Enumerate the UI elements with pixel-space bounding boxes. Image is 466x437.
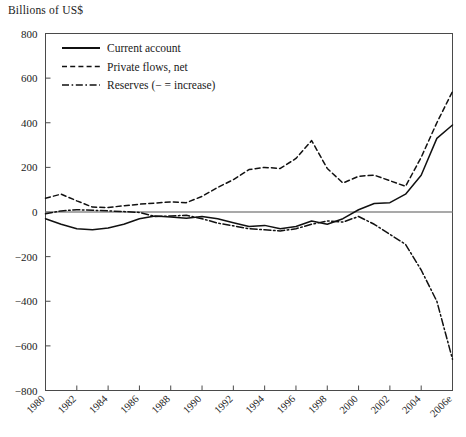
x-tick-label: 2004: [400, 393, 423, 416]
y-tick-label: −200: [15, 251, 38, 263]
x-tick-label: 1986: [118, 393, 141, 416]
legend-label-2: Reserves (− = increase): [107, 79, 216, 92]
x-tick-label: 2002: [369, 393, 392, 416]
series-line-0: [46, 125, 453, 230]
chart-plot: 8006004002000−200−400−600−80019801982198…: [0, 0, 466, 437]
y-tick-label: −400: [15, 295, 38, 307]
x-tick-label: 1982: [56, 393, 79, 416]
y-tick-label: 200: [21, 161, 38, 173]
x-tick-label: 2006e: [428, 393, 454, 419]
x-tick-label: 1988: [150, 393, 173, 416]
x-tick-label: 1980: [24, 393, 47, 416]
x-tick-label: 1994: [243, 393, 266, 416]
y-tick-label: 400: [21, 117, 38, 129]
x-tick-label: 1984: [87, 393, 110, 416]
x-tick-label: 1998: [306, 393, 329, 416]
y-tick-label: −600: [15, 340, 38, 352]
x-tick-label: 1992: [212, 393, 235, 416]
x-tick-label: 1990: [181, 393, 204, 416]
chart-container: Billions of US$ 8006004002000−200−400−60…: [0, 0, 466, 437]
y-tick-label: −800: [15, 385, 38, 397]
y-tick-label: 0: [32, 206, 38, 218]
series-line-1: [46, 92, 453, 208]
y-tick-label: 800: [21, 28, 38, 40]
legend-label-0: Current account: [107, 42, 182, 54]
x-tick-label: 1996: [275, 393, 298, 416]
legend-label-1: Private flows, net: [107, 61, 189, 74]
y-tick-label: 600: [21, 72, 38, 84]
series-line-2: [46, 210, 453, 359]
x-tick-label: 2000: [337, 393, 360, 416]
